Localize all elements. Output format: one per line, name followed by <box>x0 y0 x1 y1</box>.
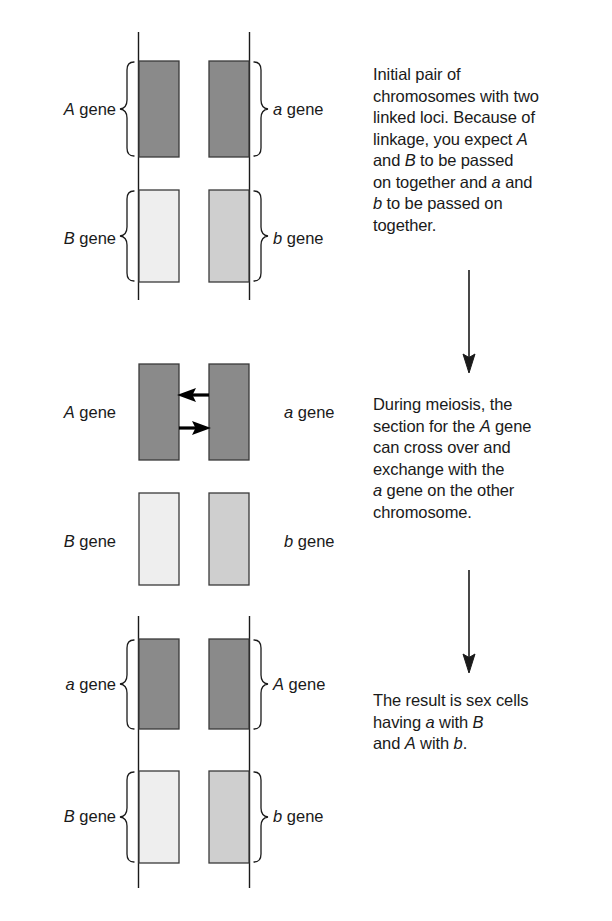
label-a-gene-symbol: a <box>66 675 75 693</box>
label-B-gene: B gene <box>20 533 116 550</box>
caption-line: having a with B <box>373 712 585 734</box>
caption-line: linkage, you expect A <box>373 129 585 151</box>
label-A-gene-symbol: A <box>64 100 75 118</box>
label-A-gene-symbol: A <box>273 675 284 693</box>
panel-result-chromosome-graphics <box>0 610 612 921</box>
label-b-gene: b gene <box>284 533 335 550</box>
label-a-gene: a gene <box>273 101 324 118</box>
caption-line: can cross over and <box>373 437 585 459</box>
segment-right-b <box>209 493 249 585</box>
segment-right-A <box>209 639 249 729</box>
caption-line: together. <box>373 215 585 237</box>
label-B-gene: B gene <box>20 230 116 247</box>
label-a-gene-word: gene <box>287 100 324 118</box>
segment-right-b <box>209 190 249 282</box>
panel-initial: A gene B gene a gene b gene Initial pair… <box>0 0 612 310</box>
segment-left-A <box>139 364 179 460</box>
caption-result: The result is sex cells having a with B … <box>373 690 585 755</box>
label-A-gene-symbol: A <box>64 403 75 421</box>
label-a-gene-word: gene <box>298 403 335 421</box>
caption-line: on together and a and <box>373 172 585 194</box>
label-b-gene-symbol: b <box>273 229 282 247</box>
caption-line: and B to be passed <box>373 150 585 172</box>
segment-left-B <box>139 493 179 585</box>
segment-right-a <box>209 364 249 460</box>
brace-A-gene <box>120 62 134 156</box>
brace-A-gene <box>254 640 268 729</box>
label-A-gene-word: gene <box>289 675 326 693</box>
label-b-gene-symbol: b <box>284 532 293 550</box>
label-A-gene: A gene <box>20 404 116 421</box>
caption-line: linked loci. Because of <box>373 107 585 129</box>
caption-line: and A with b. <box>373 733 585 755</box>
brace-a-gene <box>120 640 134 729</box>
label-B-gene-word: gene <box>79 229 116 247</box>
label-a-gene-symbol: a <box>284 403 293 421</box>
label-B-gene-word: gene <box>79 532 116 550</box>
segment-left-B <box>139 190 179 282</box>
caption-line: chromosomes with two <box>373 86 585 108</box>
label-B-gene-symbol: B <box>64 532 75 550</box>
panel-result: a gene B gene A gene b gene The result i… <box>0 610 612 921</box>
label-b-gene: b gene <box>273 808 324 825</box>
caption-line: section for the A gene <box>373 416 585 438</box>
caption-line: chromosome. <box>373 502 585 524</box>
brace-b-gene <box>254 191 268 281</box>
linkage-crossover-figure: A gene B gene a gene b gene Initial pair… <box>0 0 612 921</box>
brace-B-gene <box>120 772 134 862</box>
brace-a-gene <box>254 62 268 156</box>
label-b-gene-word: gene <box>287 229 324 247</box>
label-B-gene-word: gene <box>79 807 116 825</box>
brace-b-gene <box>254 772 268 862</box>
brace-B-gene <box>120 191 134 281</box>
caption-meiosis: During meiosis, the section for the A ge… <box>373 394 585 523</box>
label-b-gene: b gene <box>273 230 324 247</box>
label-B-gene: B gene <box>20 808 116 825</box>
arrow-A-to-right-icon <box>179 421 211 435</box>
caption-line: b to be passed on <box>373 193 585 215</box>
label-a-gene-symbol: a <box>273 100 282 118</box>
caption-line: exchange with the <box>373 459 585 481</box>
panel-meiosis: A gene B gene a gene b gene During meios… <box>0 310 612 610</box>
label-b-gene-word: gene <box>298 532 335 550</box>
segment-right-b <box>209 771 249 863</box>
segment-right-a <box>209 61 249 157</box>
label-a-gene: a gene <box>284 404 335 421</box>
label-A-gene-word: gene <box>79 403 116 421</box>
caption-line: a gene on the other <box>373 480 585 502</box>
label-a-gene: a gene <box>20 676 116 693</box>
caption-line: The result is sex cells <box>373 690 585 712</box>
segment-left-A <box>139 61 179 157</box>
label-b-gene-word: gene <box>287 807 324 825</box>
segment-left-B <box>139 771 179 863</box>
segment-left-a <box>139 639 179 729</box>
caption-line: Initial pair of <box>373 64 585 86</box>
caption-line: During meiosis, the <box>373 394 585 416</box>
label-A-gene: A gene <box>20 101 116 118</box>
label-a-gene-word: gene <box>79 675 116 693</box>
label-B-gene-symbol: B <box>64 229 75 247</box>
label-A-gene: A gene <box>273 676 325 693</box>
label-A-gene-word: gene <box>79 100 116 118</box>
arrow-a-to-left-icon <box>177 388 209 402</box>
label-B-gene-symbol: B <box>64 807 75 825</box>
label-b-gene-symbol: b <box>273 807 282 825</box>
caption-initial: Initial pair of chromosomes with two lin… <box>373 64 585 236</box>
